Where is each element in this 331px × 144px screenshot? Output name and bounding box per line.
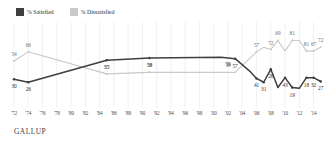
x-axis-tick: '86 — [111, 109, 117, 117]
chart-legend: % Satisfied % Dissatisfied — [16, 6, 115, 18]
x-axis-tick: '92 — [154, 109, 160, 117]
x-axis-tick: '98 — [197, 109, 203, 117]
legend-swatch-dissatisfied — [70, 8, 78, 16]
x-axis-tick: '74 — [25, 109, 31, 117]
data-label-satisfied: 27 — [318, 85, 323, 91]
data-label-dissatisfied: 67 — [311, 41, 316, 47]
gallup-brand: GALLUP — [14, 127, 46, 137]
data-label-dissatisfied: 69 — [275, 30, 280, 36]
data-label-dissatisfied: 39 — [225, 62, 230, 68]
x-axis-tick: '08 — [268, 109, 274, 117]
data-label-dissatisfied: 66 — [26, 42, 31, 48]
x-axis-tick: '02 — [225, 109, 231, 117]
data-label-satisfied: 32 — [311, 82, 316, 88]
x-axis-tick: '78 — [54, 109, 60, 117]
data-label-satisfied: 26 — [268, 73, 273, 79]
data-label-dissatisfied: 81 — [290, 30, 295, 36]
chart-canvas — [0, 22, 331, 108]
x-axis-tick: '12 — [296, 109, 302, 117]
legend-label-dissatisfied: % Dissatisfied — [81, 8, 115, 16]
data-label-dissatisfied: 39 — [147, 62, 152, 68]
x-axis-tick: '90 — [139, 109, 145, 117]
x-axis-tick: '76 — [40, 109, 46, 117]
data-label-dissatisfied: 37 — [104, 64, 109, 70]
plot-area: 3026555859574131264319183227546637393957… — [0, 22, 331, 108]
x-axis-tick: '72 — [11, 109, 17, 117]
data-label-satisfied: 43 — [282, 82, 287, 88]
x-axis-tick: '04 — [239, 109, 245, 117]
data-label-satisfied: 31 — [261, 86, 266, 92]
x-axis-tick: '80 — [68, 109, 74, 117]
data-label-dissatisfied: 72 — [268, 40, 273, 46]
x-axis-tick: '96 — [182, 109, 188, 117]
x-axis-tick: '06 — [254, 109, 260, 117]
legend-label-satisfied: % Satisfied — [27, 8, 54, 16]
data-label-dissatisfied: 81 — [304, 41, 309, 47]
data-label-satisfied: 19 — [290, 92, 295, 98]
x-axis-tick: '94 — [168, 109, 174, 117]
gridlines — [14, 22, 314, 108]
data-label-satisfied: 18 — [304, 82, 309, 88]
x-axis-tick: '10 — [282, 109, 288, 117]
legend-item-dissatisfied[interactable]: % Dissatisfied — [70, 8, 115, 16]
x-axis-tick: '88 — [125, 109, 131, 117]
data-label-satisfied: 57 — [233, 63, 238, 69]
x-axis-tick: '82 — [82, 109, 88, 117]
gallup-satisfaction-chart: % Satisfied % Dissatisfied 3026555859574… — [0, 0, 331, 144]
data-label-satisfied: 30 — [11, 83, 16, 89]
legend-item-satisfied[interactable]: % Satisfied — [16, 8, 54, 16]
data-label-satisfied: 26 — [26, 86, 31, 92]
data-label-satisfied: 41 — [254, 82, 259, 88]
data-label-dissatisfied: 72 — [318, 37, 323, 43]
x-axis-tick: '14 — [311, 109, 317, 117]
legend-swatch-satisfied — [16, 8, 24, 16]
x-axis: '72'74'76'78'80'82'84'86'88'90'92'94'96'… — [0, 109, 331, 121]
data-label-dissatisfied: 57 — [254, 42, 259, 48]
x-axis-tick: '84 — [97, 109, 103, 117]
x-axis-tick: '00 — [211, 109, 217, 117]
data-label-dissatisfied: 54 — [11, 51, 16, 57]
